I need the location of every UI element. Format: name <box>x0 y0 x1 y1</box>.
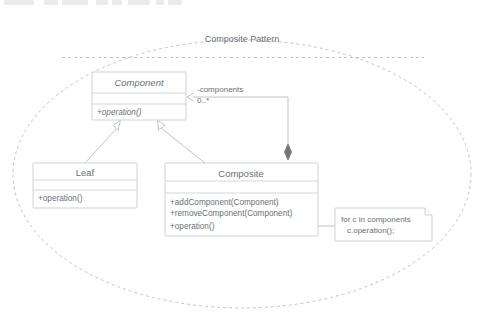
leaf-generalization-edge[interactable] <box>85 128 117 163</box>
leaf-generalization-triangle-icon <box>114 121 121 131</box>
leaf-operation-0: +operation() <box>38 194 83 203</box>
composition-diamond-icon <box>285 144 292 160</box>
uml-diagram-canvas[interactable]: Composite Pattern -components 0..* Compo… <box>0 0 485 319</box>
component-class-name: Component <box>114 77 163 88</box>
note-line-1: c.operation(); <box>347 226 394 235</box>
composite-generalization-edge[interactable] <box>161 128 205 163</box>
note-box[interactable]: for c in components c.operation(); <box>335 208 432 241</box>
association-multiplicity-label: 0..* <box>197 96 209 105</box>
association-role-label: -components <box>197 85 243 94</box>
composite-operation-1: +removeComponent(Component) <box>170 209 292 218</box>
composite-operation-0: +addComponent(Component) <box>170 198 279 207</box>
package-title: Composite Pattern <box>205 34 280 44</box>
note-outline <box>335 208 432 241</box>
composite-operation-2: +operation() <box>170 222 215 231</box>
class-box-component[interactable]: Component +operation() <box>92 72 186 120</box>
class-box-composite[interactable]: Composite +addComponent(Component) +remo… <box>165 163 318 236</box>
leaf-class-name: Leaf <box>76 167 95 178</box>
note-line-0: for c in components <box>341 215 411 224</box>
class-box-leaf[interactable]: Leaf +operation() <box>33 163 137 208</box>
component-operation-0: +operation() <box>97 108 142 117</box>
composite-class-name: Composite <box>218 168 263 179</box>
composition-arrowhead-open <box>187 93 194 101</box>
